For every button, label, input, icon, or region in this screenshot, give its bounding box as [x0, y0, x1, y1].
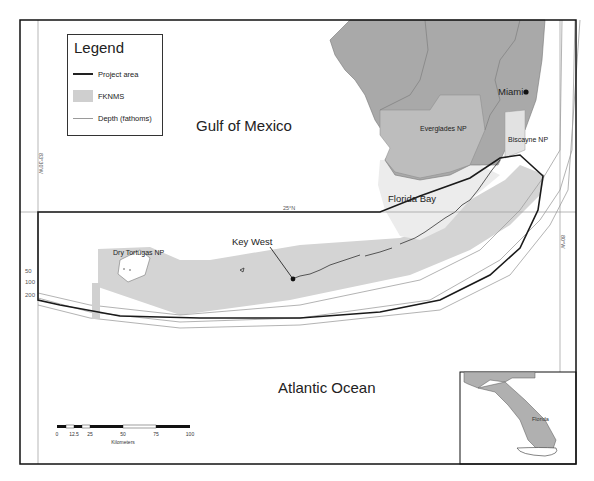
- depth-label-100: 100: [25, 279, 35, 285]
- legend-item-project-area: Project area: [73, 63, 157, 85]
- scale-unit-label: Kilometers: [111, 439, 135, 445]
- depth-label-200: 200: [25, 292, 35, 298]
- everglades-np-label: Everglades NP: [420, 125, 467, 132]
- depth-line-icon: [73, 118, 93, 119]
- map: Legend Project area FKNMS Depth (fathoms…: [0, 0, 594, 481]
- biscayne-np: [505, 110, 525, 158]
- lon-83-30w-label: 83°30'W: [38, 153, 44, 174]
- shallow-bank: [92, 283, 100, 319]
- inset-florida-label: Florida: [532, 416, 549, 422]
- lon-80w-label: 80°W: [560, 235, 566, 249]
- dry-tortugas-np-label: Dry Tortugas NP: [113, 249, 164, 256]
- miami-dot: [523, 89, 528, 94]
- biscayne-np-label: Biscayne NP: [508, 136, 548, 143]
- inset-map: [460, 372, 576, 464]
- fknms-swatch-icon: [73, 90, 93, 102]
- legend-title: Legend: [74, 39, 157, 57]
- scale-bar: [57, 425, 190, 428]
- atlantic-ocean-label: Atlantic Ocean: [278, 379, 376, 396]
- lat-25n-label: 25°N: [283, 205, 295, 211]
- project-line-icon: [73, 73, 93, 75]
- depth-label-50: 50: [25, 268, 32, 274]
- legend-item-depth: Depth (fathoms): [73, 107, 157, 129]
- miami-label: Miami: [498, 86, 523, 97]
- legend: Legend Project area FKNMS Depth (fathoms…: [67, 34, 163, 136]
- key-west-label: Key West: [232, 236, 272, 247]
- legend-item-fknms: FKNMS: [73, 85, 157, 107]
- florida-bay-label: Florida Bay: [388, 193, 436, 204]
- gulf-of-mexico-label: Gulf of Mexico: [196, 117, 292, 134]
